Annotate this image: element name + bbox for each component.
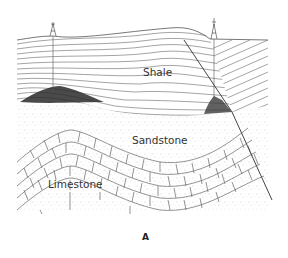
shale-label: Shale <box>143 66 172 78</box>
figure-caption: A <box>142 232 149 242</box>
limestone-label: Limestone <box>48 178 103 190</box>
cross-section-diagram <box>0 0 288 258</box>
sandstone-label: Sandstone <box>132 134 188 146</box>
